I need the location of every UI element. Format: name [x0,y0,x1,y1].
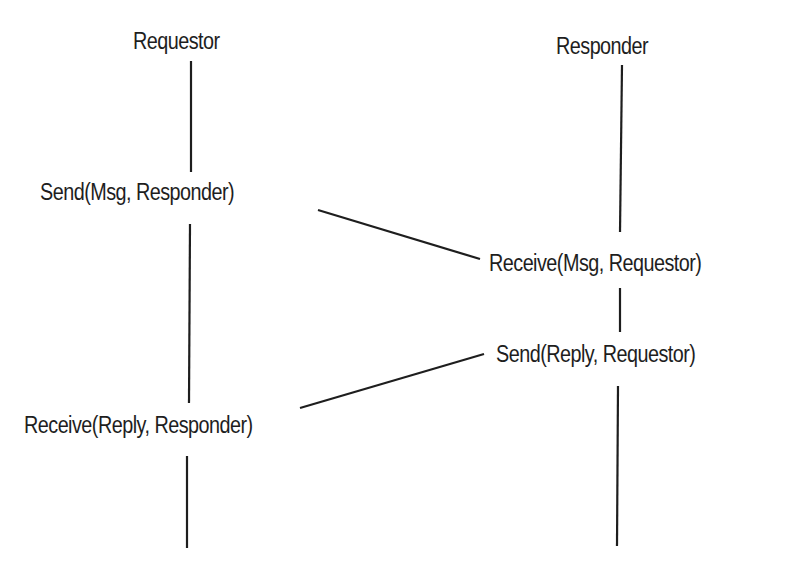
diagram-lines [0,0,808,574]
sequence-diagram: Requestor Responder Send(Msg, Responder)… [0,0,808,574]
requestor-lifeline-segment-2 [189,224,190,403]
message-line-reply [300,354,484,408]
participant-requestor-label: Requestor [133,30,220,53]
event-send-reply-label: Send(Reply, Requestor) [496,343,695,366]
event-receive-msg-label: Receive(Msg, Requestor) [489,252,701,275]
participant-responder-label: Responder [556,35,648,58]
event-receive-reply-label: Receive(Reply, Responder) [24,414,253,437]
requestor-lifeline [187,61,191,548]
responder-lifeline-segment-1 [620,65,622,232]
message-line-msg [318,210,480,259]
event-send-msg-label: Send(Msg, Responder) [40,181,234,204]
responder-lifeline [617,65,622,546]
responder-lifeline-segment-3 [617,386,618,546]
